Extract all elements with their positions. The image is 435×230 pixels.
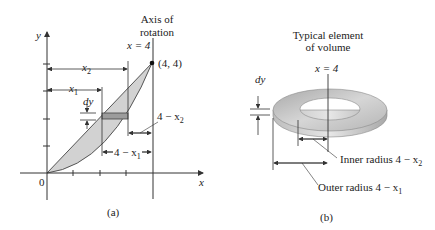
panel-b-title-line1: Typical element xyxy=(288,29,368,41)
y-axis-label: y xyxy=(36,29,41,41)
panel-b-axis-equation: x = 4 xyxy=(315,62,338,74)
strip-element xyxy=(102,113,128,119)
caption-b: (b) xyxy=(320,211,333,223)
dy-label-b: dy xyxy=(255,73,265,85)
axis-equation: x = 4 xyxy=(127,39,150,51)
axis-title-line2: rotation xyxy=(132,26,182,38)
inner-radius-label: Inner radius 4 − x2 xyxy=(340,153,422,170)
panel-b-title-line2: of volume xyxy=(288,41,368,53)
caption-a: (a) xyxy=(107,206,119,218)
origin-label: 0 xyxy=(39,176,45,188)
point-4-4 xyxy=(150,61,155,66)
outer-radius-label: Outer radius 4 − x1 xyxy=(318,181,402,198)
x-axis-label: x xyxy=(199,176,204,188)
x2-label: x2 xyxy=(82,61,91,78)
axis-title-line1: Axis of xyxy=(132,13,182,25)
dy-label-a: dy xyxy=(83,95,93,107)
x1-label: x1 xyxy=(69,82,78,99)
four-minus-x1-label: 4 − x1 xyxy=(113,146,142,163)
point-label: (4, 4) xyxy=(158,57,182,69)
four-minus-x2-label: 4 − x2 xyxy=(157,110,184,127)
